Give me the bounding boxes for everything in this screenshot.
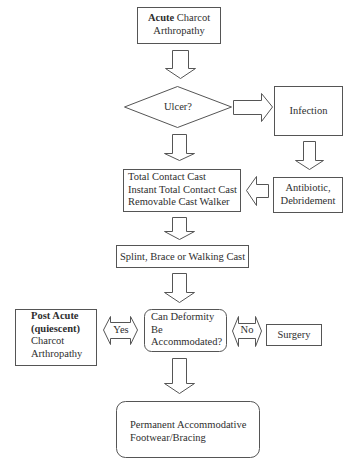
- acute-node-label: Acute Charcot Arthropathy: [137, 11, 221, 37]
- permanent-line1-text: Permanent Accommodative: [130, 418, 246, 431]
- permanent-line2-text: Footwear/Bracing: [130, 431, 246, 444]
- surgery-node-label: Surgery: [266, 328, 322, 341]
- down-arrow-icon: [166, 51, 196, 79]
- deformity-node-label: Can Deformity Be Accommodated?: [151, 311, 222, 349]
- infection-node-label: Infection: [274, 104, 343, 117]
- post-acute-bold1-text: Post Acute: [31, 310, 79, 321]
- right-arrow-icon: [234, 94, 273, 122]
- down-arrow-icon: [296, 142, 324, 170]
- antibiotic-line2-text: Debridement: [273, 194, 343, 207]
- post-acute-line3-text: Charcot: [31, 335, 82, 348]
- acute-line2-text: Arthropathy: [137, 24, 221, 37]
- antibiotic-node-label: Antibiotic, Debridement: [273, 181, 343, 207]
- flowchart-shapes: [0, 0, 353, 470]
- down-arrow-icon: [165, 359, 195, 394]
- post-acute-bold2-text: (quiescent): [31, 323, 80, 334]
- acute-bold-text: Acute: [148, 12, 174, 23]
- down-arrow-icon: [165, 135, 195, 161]
- yes-edge-label: Yes: [108, 323, 134, 336]
- flowchart-canvas: Acute Charcot Arthropathy Ulcer? Infecti…: [0, 0, 353, 470]
- deformity-line3-text: Accommodated?: [151, 336, 222, 349]
- deformity-line1-text: Can Deformity: [151, 311, 222, 324]
- post-acute-node-label: Post Acute (quiescent) Charcot Arthropat…: [31, 310, 82, 360]
- post-acute-line4-text: Arthropathy: [31, 348, 82, 361]
- down-arrow-icon: [165, 274, 195, 303]
- acute-rest-text: Charcot: [174, 12, 210, 23]
- no-edge-label: No: [237, 323, 257, 336]
- down-arrow-icon: [165, 218, 195, 240]
- ulcer-node-label: Ulcer?: [124, 100, 232, 113]
- casts-line1-text: Total Contact Cast: [128, 171, 237, 184]
- casts-line2-text: Instant Total Contact Cast: [128, 184, 237, 197]
- casts-node-label: Total Contact Cast Instant Total Contact…: [128, 171, 237, 209]
- left-arrow-icon: [247, 177, 269, 206]
- deformity-line2-text: Be: [151, 324, 222, 337]
- casts-line3-text: Removable Cast Walker: [128, 196, 237, 209]
- splint-node-label: Splint, Brace or Walking Cast: [116, 250, 249, 263]
- antibiotic-line1-text: Antibiotic,: [273, 181, 343, 194]
- permanent-node-label: Permanent Accommodative Footwear/Bracing: [130, 418, 246, 444]
